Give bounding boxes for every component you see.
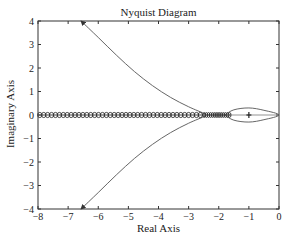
x-tick-label: −3 (183, 211, 194, 222)
y-tick-label: 4 (29, 16, 34, 27)
tick-labels: −8−7−6−5−4−3−2−10−4−3−2−101234 (23, 16, 281, 223)
y-tick-label: 1 (29, 86, 34, 97)
x-tick-label: −8 (33, 211, 44, 222)
y-tick-label: 3 (29, 39, 34, 50)
data-series (38, 21, 279, 209)
x-tick-label: −7 (63, 211, 74, 222)
y-tick-label: −4 (23, 204, 34, 215)
x-tick-label: −4 (153, 211, 164, 222)
x-tick-label: −1 (244, 211, 255, 222)
nyquist-plot: −8−7−6−5−4−3−2−10−4−3−2−101234 (0, 0, 288, 240)
y-tick-label: 2 (29, 63, 34, 74)
y-tick-label: −1 (23, 133, 34, 144)
x-tick-label: 0 (277, 211, 282, 222)
y-tick-label: −2 (23, 157, 34, 168)
y-tick-label: 0 (29, 110, 34, 121)
x-tick-label: −5 (123, 211, 134, 222)
x-tick-label: −6 (93, 211, 104, 222)
x-tick-label: −2 (213, 211, 224, 222)
y-tick-label: −3 (23, 180, 34, 191)
nyquist-curve (81, 21, 205, 114)
nyquist-curve (81, 116, 205, 209)
